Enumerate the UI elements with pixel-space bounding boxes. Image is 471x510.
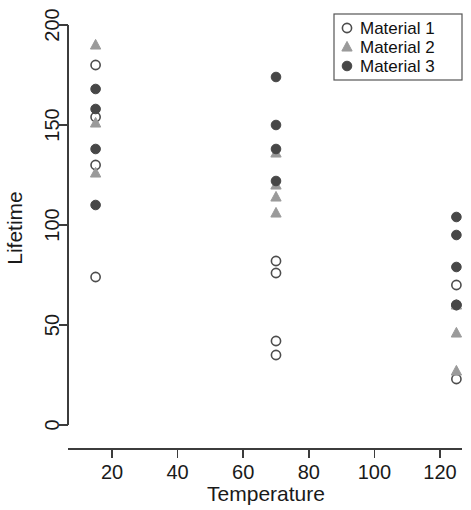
x-tick-label: 60 — [232, 461, 254, 483]
data-point — [91, 104, 101, 114]
data-point — [90, 39, 100, 49]
x-tick-label: 100 — [358, 461, 391, 483]
legend-label: Material 1 — [360, 19, 435, 38]
data-point — [271, 120, 281, 130]
data-point — [452, 374, 461, 383]
legend: Material 1Material 2Material 3 — [334, 14, 462, 80]
x-axis: 20406080100120 — [68, 449, 462, 483]
data-point — [452, 262, 462, 272]
series-material-1 — [91, 60, 461, 383]
data-point — [452, 230, 462, 240]
data-point — [271, 144, 281, 154]
data-point — [91, 200, 101, 210]
x-axis-title: Temperature — [207, 482, 325, 505]
y-tick-label: 100 — [41, 208, 63, 241]
data-point — [271, 191, 281, 201]
data-point — [452, 212, 462, 222]
y-tick-label: 50 — [41, 314, 63, 336]
y-tick-label: 200 — [41, 8, 63, 41]
data-point — [271, 207, 281, 217]
data-point — [91, 272, 100, 281]
data-point — [452, 280, 461, 289]
data-points — [90, 39, 461, 383]
y-axis: 050100150200 — [41, 8, 68, 430]
data-point — [342, 61, 352, 71]
x-tick-label: 20 — [101, 461, 123, 483]
scatter-plot: 050100150200 20406080100120 Material 1Ma… — [0, 0, 471, 510]
data-point — [271, 268, 280, 277]
data-point — [91, 60, 100, 69]
data-point — [271, 336, 280, 345]
x-tick-label: 80 — [298, 461, 320, 483]
y-tick-label: 0 — [41, 419, 63, 430]
data-point — [91, 84, 101, 94]
data-point — [271, 256, 280, 265]
x-tick-label: 40 — [166, 461, 188, 483]
chart-canvas: 050100150200 20406080100120 Material 1Ma… — [0, 0, 471, 510]
x-tick-label: 120 — [423, 461, 456, 483]
data-point — [271, 72, 281, 82]
data-point — [452, 300, 462, 310]
series-material-2 — [90, 39, 461, 375]
data-point — [451, 365, 461, 375]
legend-label: Material 2 — [360, 38, 435, 57]
data-point — [271, 176, 281, 186]
data-point — [91, 144, 101, 154]
data-point — [271, 350, 280, 359]
y-tick-label: 150 — [41, 108, 63, 141]
legend-label: Material 3 — [360, 57, 435, 76]
y-axis-title: Lifetime — [3, 191, 26, 265]
data-point — [451, 327, 461, 337]
